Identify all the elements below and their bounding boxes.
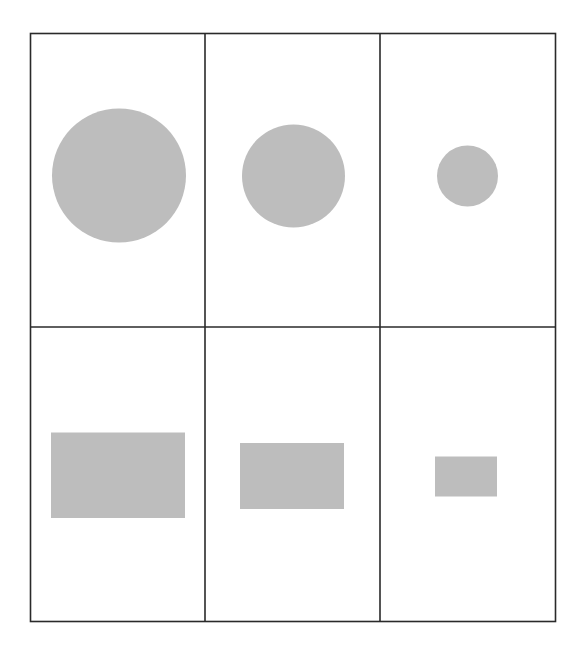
medium-circle-shape: [242, 125, 345, 228]
large-circle-shape: [52, 109, 186, 243]
small-rectangle-shape: [435, 457, 497, 497]
shape-grid-diagram: [0, 0, 585, 661]
medium-rectangle-shape: [240, 443, 344, 509]
shapes-layer: [51, 109, 498, 519]
large-rectangle-shape: [51, 433, 185, 519]
small-circle-shape: [437, 146, 498, 207]
